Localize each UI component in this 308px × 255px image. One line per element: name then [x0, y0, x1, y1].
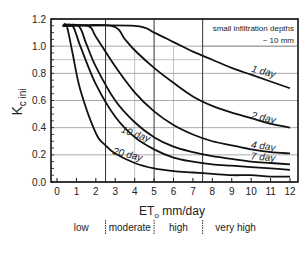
series-label: 1 day	[250, 63, 277, 80]
x-tick-label: 5	[151, 186, 157, 197]
y-tick-label: 0.4	[32, 122, 46, 133]
x-tick-label: 2	[93, 186, 99, 197]
x-tick-label: 11	[265, 186, 276, 197]
x-tick-label: 7	[190, 186, 196, 197]
band-label-moderate: moderate	[109, 222, 152, 233]
y-tick-label: 0.8	[32, 68, 46, 79]
series-label: 7 day	[250, 150, 276, 163]
band-label-low: low	[74, 222, 90, 233]
x-axis-ticks: 0123456789101112	[54, 178, 296, 197]
curve-1-day	[63, 25, 290, 88]
y-tick-label: 1.0	[32, 41, 46, 52]
kc-ini-chart: 1 day2 day4 day7 day10 day20 day 0.00.20…	[0, 0, 308, 255]
x-axis-label: ETo mm/day	[139, 204, 205, 220]
x-tick-label: 4	[132, 186, 138, 197]
x-tick-label: 12	[284, 186, 296, 197]
series-labels: 1 day2 day4 day7 day10 day20 day	[111, 63, 278, 163]
annotation-line-2: ~ 10 mm	[263, 36, 295, 45]
x-tick-label: 1	[74, 186, 80, 197]
et-category-bands: lowmoderatehighvery high	[74, 220, 256, 235]
band-label-very-high: very high	[215, 222, 256, 233]
y-tick-label: 0.0	[32, 177, 46, 188]
x-tick-label: 0	[54, 186, 60, 197]
x-tick-label: 9	[229, 186, 235, 197]
y-tick-label: 0.2	[32, 149, 46, 160]
y-axis-label: Kc ini	[9, 88, 28, 115]
x-tick-label: 8	[210, 186, 216, 197]
x-tick-label: 6	[171, 186, 177, 197]
series-label: 10 day	[120, 124, 153, 145]
series-label: 2 day	[249, 109, 277, 125]
y-tick-label: 0.6	[32, 95, 46, 106]
y-tick-label: 1.2	[32, 14, 46, 25]
infiltration-annotation: small infiltration depths~ 10 mm	[203, 24, 298, 46]
annotation-line-1: small infiltration depths	[213, 24, 294, 33]
band-label-high: high	[169, 222, 188, 233]
x-tick-label: 10	[246, 186, 258, 197]
x-tick-label: 3	[112, 186, 118, 197]
